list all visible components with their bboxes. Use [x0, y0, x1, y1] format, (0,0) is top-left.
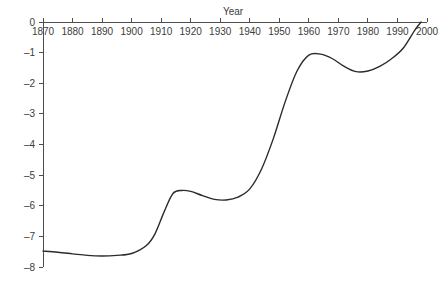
chart-title: Year	[223, 6, 244, 17]
x-tick-label: 1890	[91, 26, 114, 37]
y-axis: 0–1–2–3–4–5–6–7–8	[24, 17, 43, 273]
x-tick-label: 2000	[416, 26, 439, 37]
y-tick-label: –3	[24, 108, 36, 119]
x-tick-label: 1990	[386, 26, 409, 37]
chart-figure: Year 18701880189019001910192019301940195…	[0, 0, 442, 281]
x-tick-label: 1900	[120, 26, 143, 37]
y-tick-label: –7	[24, 231, 36, 242]
y-tick-label: 0	[29, 17, 35, 28]
x-axis: 1870188018901900191019201930194019501960…	[32, 18, 439, 37]
x-tick-label: 1960	[298, 26, 321, 37]
x-tick-label: 1970	[327, 26, 350, 37]
y-tick-label: –4	[24, 139, 36, 150]
y-tick-label: –6	[24, 200, 36, 211]
x-tick-label: 1880	[61, 26, 84, 37]
x-tick-label: 1910	[150, 26, 173, 37]
x-tick-label: 1930	[209, 26, 232, 37]
y-tick-label: –8	[24, 262, 36, 273]
y-tick-label: –1	[24, 47, 36, 58]
line-chart: Year 18701880189019001910192019301940195…	[0, 0, 442, 281]
data-series-trend	[43, 22, 421, 256]
x-tick-label: 1920	[180, 26, 203, 37]
y-tick-label: –2	[24, 78, 36, 89]
y-tick-label: –5	[24, 170, 36, 181]
x-tick-label: 1950	[268, 26, 291, 37]
x-tick-label: 1980	[357, 26, 380, 37]
x-tick-label: 1940	[239, 26, 262, 37]
